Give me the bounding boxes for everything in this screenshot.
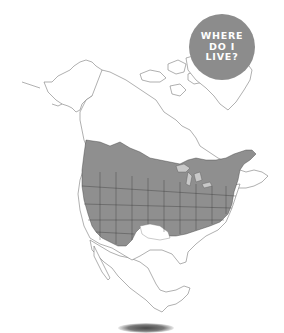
bottom-shadow xyxy=(118,323,174,333)
where-do-i-live-badge: WHERE DO I LIVE? xyxy=(189,14,255,80)
badge-line-3: LIVE? xyxy=(206,52,239,63)
